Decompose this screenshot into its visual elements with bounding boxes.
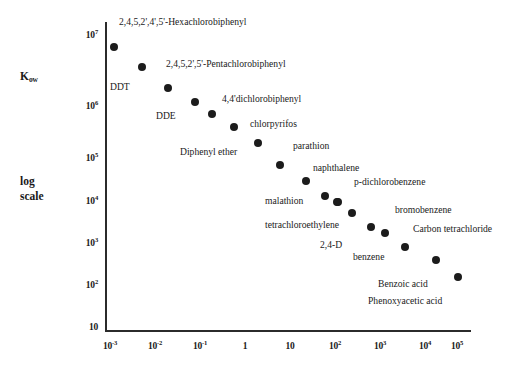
x-tick-label: 10-1	[193, 341, 207, 351]
data-point	[432, 256, 440, 264]
x-axis-line	[105, 330, 471, 332]
x-tick-label: 1	[243, 341, 248, 351]
y-tick-label: 106	[60, 101, 98, 111]
point-label: 4,4'dichlorobiphenyl	[222, 94, 301, 104]
y-axis-line	[105, 22, 107, 331]
point-label: Benzoic acid	[378, 279, 428, 289]
data-point	[208, 110, 216, 118]
y-tick-label: 104	[60, 196, 98, 206]
data-point	[454, 273, 462, 281]
point-label: 2,4-D	[320, 240, 342, 250]
data-point	[367, 223, 375, 231]
data-point	[302, 177, 310, 185]
y-tick-label: 102	[60, 280, 98, 290]
point-label: tetrachloroethylene	[265, 220, 339, 230]
point-label: 2,4,5,2',4',5'-Hexachlorobiphenyl	[119, 17, 246, 27]
data-point	[110, 43, 118, 51]
point-label: Diphenyl ether	[180, 147, 237, 157]
kow-subscript: ow	[29, 75, 38, 84]
data-point	[348, 209, 356, 217]
x-tick-label: 10	[285, 341, 294, 351]
x-tick-label: 104	[419, 341, 431, 351]
data-point	[191, 98, 199, 106]
y-axis-title-kow: Kow	[20, 70, 38, 83]
point-label: DDT	[110, 82, 130, 92]
data-point	[321, 192, 329, 200]
point-label: Carbon tetrachloride	[413, 224, 492, 234]
y-tick-label: 107	[60, 30, 98, 40]
point-label: benzene	[353, 252, 384, 262]
y-tick-label: 103	[60, 238, 98, 248]
data-point	[381, 229, 389, 237]
data-point	[401, 243, 409, 251]
data-point	[254, 139, 262, 147]
x-tick-label: 10-2	[148, 341, 162, 351]
data-point	[334, 198, 342, 206]
point-label: malathion	[265, 196, 303, 206]
x-tick-label: 10-3	[103, 341, 117, 351]
data-point	[230, 123, 238, 131]
data-point	[164, 84, 172, 92]
point-label: chlorpyrifos	[250, 119, 297, 129]
x-tick-label: 102	[329, 341, 341, 351]
point-label: Phenoxyacetic acid	[368, 296, 442, 306]
y-axis-title-logscale-line1: log	[20, 175, 35, 188]
data-point	[138, 63, 146, 71]
x-tick-label: 103	[374, 341, 386, 351]
point-label: naphthalene	[313, 163, 359, 173]
point-label: parathion	[293, 141, 329, 151]
data-point	[276, 161, 284, 169]
y-axis-title-logscale-line2: scale	[20, 190, 44, 203]
scatter-chart-figure: Kow log scale 10710610510410310210 10-31…	[0, 0, 507, 378]
point-label: p-dichlorobenzene	[354, 177, 425, 187]
point-label: bromobenzene	[395, 205, 451, 215]
x-tick-label: 105	[451, 341, 463, 351]
y-tick-label: 10	[60, 322, 98, 332]
point-label: 2,4,5,2',5'-Pentachlorobiphenyl	[166, 59, 286, 69]
point-label: DDE	[156, 111, 176, 121]
y-tick-label: 105	[60, 153, 98, 163]
